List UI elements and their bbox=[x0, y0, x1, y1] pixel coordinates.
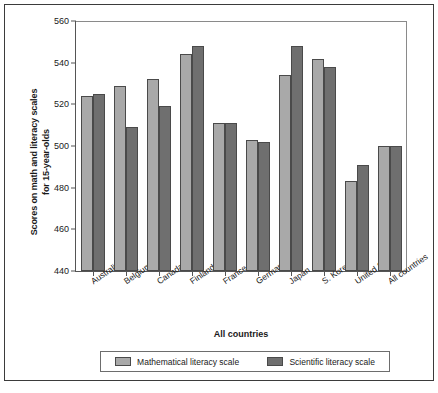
bar-mathematical[interactable] bbox=[279, 75, 291, 271]
chart-legend: Mathematical literacy scaleScientific li… bbox=[100, 351, 390, 372]
bar-group: Japan bbox=[275, 21, 308, 271]
bar-group: Germany bbox=[241, 21, 274, 271]
bar-scientific[interactable] bbox=[390, 146, 402, 271]
bar-groups: AustraliaBelgiumCanadaFinlandFranceGerma… bbox=[76, 21, 407, 271]
bar-scientific[interactable] bbox=[357, 165, 369, 271]
bar-mathematical[interactable] bbox=[114, 86, 126, 271]
bar-scientific[interactable] bbox=[324, 67, 336, 271]
bar-mathematical[interactable] bbox=[81, 96, 93, 271]
bar-scientific[interactable] bbox=[192, 46, 204, 271]
bar-group: France bbox=[208, 21, 241, 271]
legend-swatch-icon bbox=[115, 357, 131, 366]
bar-mathematical[interactable] bbox=[345, 181, 357, 271]
bar-mathematical[interactable] bbox=[246, 140, 258, 271]
bar-scientific[interactable] bbox=[258, 142, 270, 271]
bar-mathematical[interactable] bbox=[312, 59, 324, 272]
bar-group: S. Korea bbox=[308, 21, 341, 271]
bar-mathematical[interactable] bbox=[147, 79, 159, 271]
legend-entry[interactable]: Scientific literacy scale bbox=[267, 357, 375, 367]
bar-scientific[interactable] bbox=[126, 127, 138, 271]
bar-scientific[interactable] bbox=[159, 106, 171, 271]
y-axis-title-line-1: Scores on math and literacy scales bbox=[28, 47, 40, 277]
bar-group: Belgium bbox=[109, 21, 142, 271]
bar-mathematical[interactable] bbox=[213, 123, 225, 271]
bar-group: Australia bbox=[76, 21, 109, 271]
bar-group: United States bbox=[341, 21, 374, 271]
legend-label: Scientific literacy scale bbox=[289, 357, 375, 367]
legend-swatch-icon bbox=[267, 357, 283, 366]
bar-group: Finland bbox=[175, 21, 208, 271]
bar-mathematical[interactable] bbox=[378, 146, 390, 271]
y-axis-title-line-2: for 15-year-olds bbox=[40, 47, 52, 277]
legend-label: Mathematical literacy scale bbox=[137, 357, 239, 367]
x-axis-title: All countries bbox=[75, 329, 407, 339]
bar-scientific[interactable] bbox=[225, 123, 237, 271]
chart-figure: Scores on math and literacy scales for 1… bbox=[0, 0, 438, 393]
bar-group: Canada bbox=[142, 21, 175, 271]
bar-group: All countries bbox=[374, 21, 407, 271]
bar-scientific[interactable] bbox=[291, 46, 303, 271]
legend-entry[interactable]: Mathematical literacy scale bbox=[115, 357, 239, 367]
plot-area: 440460480500520540560 AustraliaBelgiumCa… bbox=[75, 21, 407, 272]
y-axis-title: Scores on math and literacy scales for 1… bbox=[28, 47, 52, 277]
bar-mathematical[interactable] bbox=[180, 54, 192, 271]
bar-scientific[interactable] bbox=[93, 94, 105, 271]
